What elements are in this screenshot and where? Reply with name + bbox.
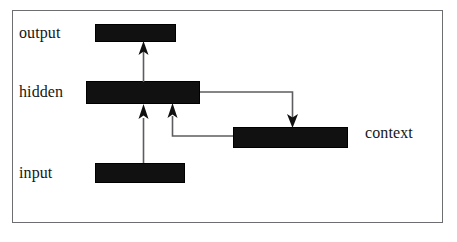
node-bar-input [95,163,185,183]
layer-label-output: output [19,24,61,42]
diagram-canvas: output hidden context input [0,0,457,242]
node-bar-context [233,127,348,148]
layer-label-input: input [19,164,52,182]
layer-label-context: context [365,124,413,142]
diagram-frame [12,10,443,223]
node-bar-output [95,24,176,42]
node-bar-hidden [86,81,200,104]
layer-label-hidden: hidden [19,83,63,101]
